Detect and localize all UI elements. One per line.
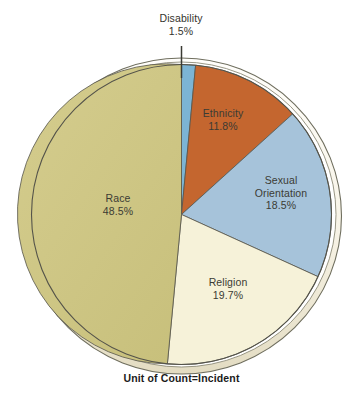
pie-chart-figure: Disability 1.5% Ethnicity 11.8% Sexual O…: [0, 0, 363, 394]
pie-slice-race[interactable]: [17, 64, 181, 364]
chart-caption: Unit of Count=Incident: [0, 372, 363, 384]
pie-slices: [17, 64, 331, 365]
pie-chart-graphic: [0, 0, 363, 394]
